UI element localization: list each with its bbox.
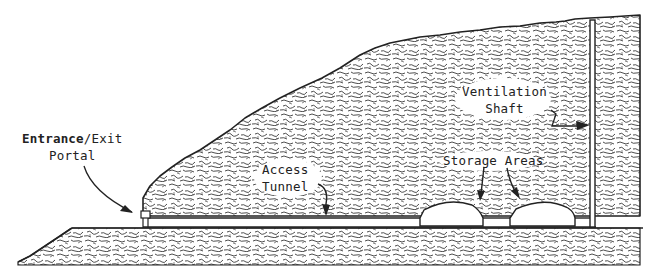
access-tunnel-label-line2: Tunnel <box>262 178 308 195</box>
storage-areas-label: Storage Areas <box>443 152 543 169</box>
ventilation-shaft-label-line1: Ventilation <box>462 83 547 100</box>
storage-areas-label-line1: Storage Areas <box>443 152 543 169</box>
portal-label-bold: Entrance <box>22 131 84 146</box>
portal-label-line1: Entrance/Exit <box>22 130 122 147</box>
ground-layer <box>18 228 640 265</box>
portal-label: Entrance/Exit Portal <box>22 130 122 164</box>
portal-label-rest: /Exit <box>84 131 123 146</box>
ventilation-shaft <box>590 20 595 227</box>
ventilation-shaft-label-line2: Shaft <box>462 100 547 117</box>
hillside-rock-mass <box>143 15 640 216</box>
access-tunnel-label: Access Tunnel <box>262 161 308 195</box>
portal-label-line2: Portal <box>22 147 122 164</box>
ventilation-shaft-label: Ventilation Shaft <box>462 83 547 117</box>
portal-arrow-icon <box>84 166 133 213</box>
shaft-tunnel-junction <box>591 217 594 226</box>
access-tunnel-label-line1: Access <box>262 161 308 178</box>
